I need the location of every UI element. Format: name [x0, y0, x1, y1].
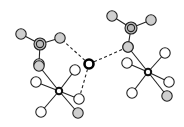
oxygen-ligand-atom: [123, 42, 133, 52]
ligand-atom: [74, 94, 84, 104]
metal-atom: [56, 88, 62, 94]
ligand-atom: [70, 65, 80, 75]
ligand-atom: [160, 48, 170, 58]
hydrogen-bond: [60, 38, 89, 64]
central-anion-atom-inner: [127, 24, 134, 31]
oxygen-ligand-atom: [34, 61, 44, 71]
atoms: [16, 11, 174, 118]
ligand-atom: [36, 107, 46, 117]
ligand-atom: [122, 58, 132, 68]
ligand-atom: [127, 88, 137, 98]
central-anion-atom-inner: [36, 40, 43, 47]
oxygen-atom: [16, 29, 26, 39]
oxygen-ligand-atom: [73, 108, 83, 118]
oxygen-atom: [146, 15, 156, 25]
molecular-diagram: [0, 0, 184, 127]
metal-atom: [145, 69, 151, 75]
oxygen-atom: [107, 11, 117, 21]
central-atom: [85, 60, 94, 69]
oxygen-atom: [55, 33, 65, 43]
ligand-atom: [31, 77, 41, 87]
oxygen-ligand-atom: [162, 91, 172, 101]
molecule-canvas: [0, 0, 184, 127]
ligand-atom: [164, 77, 174, 87]
